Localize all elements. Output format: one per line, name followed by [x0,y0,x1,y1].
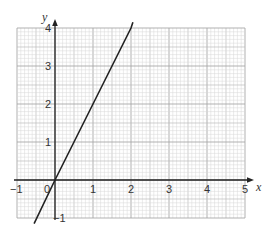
origin-label: 0 [44,183,50,195]
y-tick-label: 1 [45,136,51,148]
x-axis-label: x [255,180,262,194]
y-tick-label: −1 [53,212,66,224]
x-tick-label: 5 [242,183,248,195]
x-tick-label: 4 [204,183,210,195]
x-tick-label: 2 [128,183,134,195]
y-tick-label: 4 [45,22,51,34]
y-tick-label: 3 [45,60,51,72]
x-tick-label: 3 [166,183,172,195]
x-axis-arrow-icon [247,177,254,183]
line-graph: x y 0 −112345−11234 [0,0,274,236]
y-tick-label: 2 [45,98,51,110]
x-tick-label: −1 [10,183,23,195]
x-tick-label: 1 [90,183,96,195]
y-axis-arrow-icon [52,19,58,26]
tick-labels: x y 0 −112345−11234 [10,10,262,224]
